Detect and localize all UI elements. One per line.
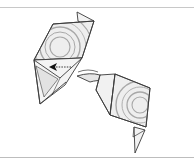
- upper-left-piece: [28, 12, 94, 104]
- diagram-frame: [0, 0, 194, 165]
- lower-right-piece: [77, 70, 164, 153]
- origami-diagram: [0, 0, 194, 165]
